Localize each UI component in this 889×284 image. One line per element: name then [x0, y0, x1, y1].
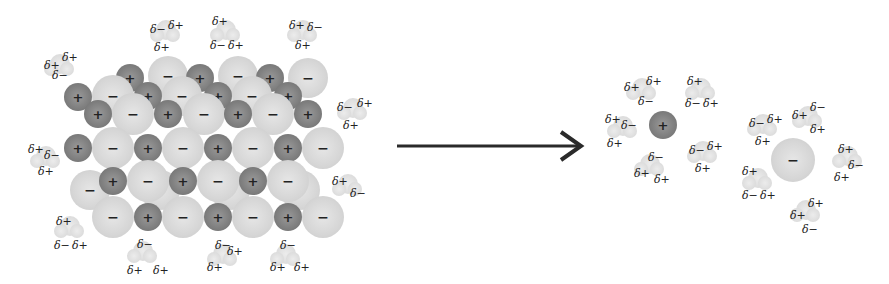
- cation: +: [154, 100, 182, 128]
- positive-charge-symbol: +: [283, 141, 294, 156]
- anion: −: [197, 160, 239, 202]
- water-molecule: δ+δ−δ+: [28, 140, 62, 174]
- delta-plus-label: δ+: [357, 98, 373, 109]
- delta-minus-label: δ−: [137, 239, 153, 250]
- water-molecule: δ+δ−δ+: [740, 162, 774, 196]
- delta-plus-label: δ+: [646, 76, 662, 87]
- delta-plus-label: δ+: [834, 172, 850, 183]
- anion: −: [162, 196, 204, 238]
- positive-charge-symbol: +: [108, 174, 119, 189]
- anion: −: [127, 160, 169, 202]
- negative-charge-symbol: −: [177, 140, 189, 156]
- delta-minus-label: δ−: [621, 120, 637, 131]
- cation: +: [204, 134, 232, 162]
- positive-charge-symbol: +: [178, 174, 189, 189]
- delta-minus-label: δ−: [742, 190, 758, 201]
- water-molecule: δ+δ+δ−: [788, 194, 822, 228]
- delta-plus-label: δ+: [707, 141, 723, 152]
- anion: −: [771, 138, 815, 182]
- delta-minus-label: δ−: [307, 22, 323, 33]
- negative-charge-symbol: −: [302, 70, 314, 86]
- negative-charge-symbol: −: [142, 173, 154, 189]
- positive-charge-symbol: +: [143, 141, 154, 156]
- negative-charge-symbol: −: [787, 152, 799, 168]
- delta-plus-label: δ+: [755, 136, 771, 147]
- delta-plus-label: δ+: [792, 110, 808, 121]
- delta-plus-label: δ+: [127, 265, 143, 276]
- negative-charge-symbol: −: [198, 106, 210, 122]
- delta-plus-label: δ+: [28, 144, 44, 155]
- delta-plus-label: δ+: [294, 262, 310, 273]
- delta-minus-label: δ−: [648, 152, 664, 163]
- water-molecule: δ−δ+δ+: [148, 14, 182, 48]
- delta-plus-label: δ+: [695, 163, 711, 174]
- delta-plus-label: δ+: [808, 198, 824, 209]
- anion: −: [302, 196, 344, 238]
- positive-charge-symbol: +: [213, 141, 224, 156]
- cation: +: [239, 167, 267, 195]
- water-molecule: δ−δ+δ+: [268, 238, 302, 272]
- delta-minus-label: δ−: [210, 40, 226, 51]
- delta-plus-label: δ+: [56, 216, 72, 227]
- water-molecule: δ−δ+δ+: [685, 135, 719, 169]
- cation: +: [649, 111, 677, 139]
- cation: +: [294, 100, 322, 128]
- delta-plus-label: δ+: [810, 124, 826, 135]
- positive-charge-symbol: +: [163, 107, 174, 122]
- water-molecule: δ+δ−δ+: [830, 140, 864, 174]
- cation: +: [99, 167, 127, 195]
- delta-minus-label: δ−: [52, 70, 68, 81]
- delta-minus-label: δ−: [802, 224, 818, 235]
- delta-plus-label: δ+: [295, 40, 311, 51]
- delta-plus-label: δ+: [790, 210, 806, 221]
- delta-plus-label: δ+: [607, 138, 623, 149]
- positive-charge-symbol: +: [248, 174, 259, 189]
- water-molecule: δ+δ−δ+: [790, 100, 824, 134]
- delta-minus-label: δ−: [638, 96, 654, 107]
- water-molecule: δ+δ−δ+: [285, 14, 319, 48]
- delta-minus-label: δ−: [848, 160, 864, 171]
- water-molecule: δ−δ+δ+: [335, 92, 369, 126]
- cation: +: [84, 100, 112, 128]
- cation: +: [204, 203, 232, 231]
- negative-charge-symbol: −: [247, 209, 259, 225]
- water-molecule: δ+δ−δ+: [52, 210, 86, 244]
- positive-charge-symbol: +: [658, 118, 669, 133]
- delta-minus-label: δ−: [337, 102, 353, 113]
- water-molecule: δ−δ+δ+: [632, 148, 666, 182]
- cation: +: [274, 203, 302, 231]
- delta-minus-label: δ−: [280, 240, 296, 251]
- cation: +: [274, 134, 302, 162]
- negative-charge-symbol: −: [177, 209, 189, 225]
- anion: −: [267, 160, 309, 202]
- delta-minus-label: δ−: [54, 240, 70, 251]
- delta-minus-label: δ−: [685, 98, 701, 109]
- negative-charge-symbol: −: [267, 106, 279, 122]
- delta-minus-label: δ−: [44, 150, 60, 161]
- delta-plus-label: δ+: [270, 262, 286, 273]
- delta-plus-label: δ+: [227, 246, 243, 257]
- water-molecule: δ+δ−: [330, 168, 364, 202]
- delta-plus-label: δ+: [634, 168, 650, 179]
- negative-charge-symbol: −: [317, 209, 329, 225]
- delta-minus-label: δ−: [350, 188, 366, 199]
- delta-plus-label: δ+: [687, 76, 703, 87]
- negative-charge-symbol: −: [282, 173, 294, 189]
- delta-plus-label: δ+: [703, 98, 719, 109]
- water-molecule: δ−δ+δ+: [745, 108, 779, 142]
- anion: −: [302, 127, 344, 169]
- negative-charge-symbol: −: [107, 140, 119, 156]
- delta-minus-label: δ−: [749, 118, 765, 129]
- delta-plus-label: δ+: [228, 40, 244, 51]
- anion: −: [232, 127, 274, 169]
- water-molecule: δ+δ+δ−: [624, 72, 658, 106]
- positive-charge-symbol: +: [73, 141, 84, 156]
- anion: −: [232, 196, 274, 238]
- water-molecule: δ+δ+δ−: [42, 48, 76, 82]
- delta-plus-label: δ+: [605, 114, 621, 125]
- delta-plus-label: δ+: [343, 120, 359, 131]
- delta-minus-label: δ−: [810, 102, 826, 113]
- delta-plus-label: δ+: [742, 166, 758, 177]
- positive-charge-symbol: +: [143, 210, 154, 225]
- anion: −: [92, 127, 134, 169]
